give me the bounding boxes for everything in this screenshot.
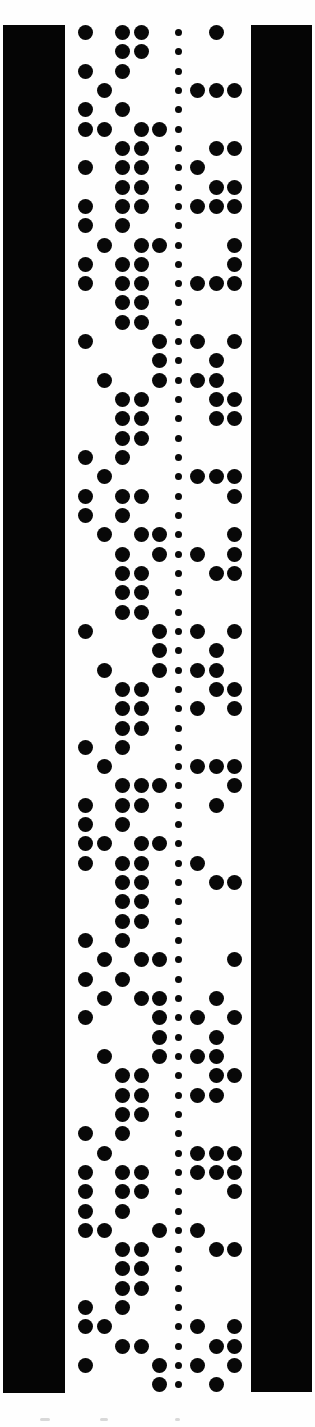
- data-hole-icon: [227, 238, 242, 253]
- sprocket-hole-icon: [175, 1343, 182, 1350]
- data-hole-icon: [115, 778, 130, 793]
- scan-artifact-mark: [40, 1418, 50, 1421]
- data-hole-icon: [115, 25, 130, 40]
- data-hole-icon: [134, 1184, 149, 1199]
- data-hole-icon: [209, 759, 224, 774]
- data-hole-icon: [190, 1010, 205, 1025]
- data-hole-icon: [115, 64, 130, 79]
- data-hole-icon: [190, 547, 205, 562]
- data-hole-icon: [227, 1358, 242, 1373]
- data-hole-icon: [227, 1010, 242, 1025]
- data-hole-icon: [227, 411, 242, 426]
- data-hole-icon: [115, 295, 130, 310]
- data-hole-icon: [209, 353, 224, 368]
- data-hole-icon: [115, 1281, 130, 1296]
- data-hole-icon: [134, 1339, 149, 1354]
- sprocket-hole-icon: [175, 1323, 182, 1330]
- data-hole-icon: [115, 1107, 130, 1122]
- scan-artifact-mark: [100, 1418, 108, 1421]
- sprocket-hole-icon: [175, 937, 182, 944]
- data-hole-icon: [209, 566, 224, 581]
- data-hole-icon: [134, 25, 149, 40]
- data-hole-icon: [227, 489, 242, 504]
- sprocket-hole-icon: [175, 821, 182, 828]
- data-hole-icon: [134, 605, 149, 620]
- data-hole-icon: [227, 180, 242, 195]
- sprocket-hole-icon: [175, 686, 182, 693]
- sprocket-hole-icon: [175, 280, 182, 287]
- sprocket-hole-icon: [175, 184, 182, 191]
- sprocket-hole-icon: [175, 126, 182, 133]
- sprocket-hole-icon: [175, 1111, 182, 1118]
- sprocket-hole-icon: [175, 725, 182, 732]
- sprocket-hole-icon: [175, 609, 182, 616]
- data-hole-icon: [115, 701, 130, 716]
- data-hole-icon: [190, 469, 205, 484]
- data-hole-icon: [209, 373, 224, 388]
- data-hole-icon: [190, 334, 205, 349]
- data-hole-icon: [115, 605, 130, 620]
- sprocket-hole-icon: [175, 493, 182, 500]
- data-hole-icon: [209, 1242, 224, 1257]
- data-hole-icon: [134, 431, 149, 446]
- sprocket-hole-icon: [175, 87, 182, 94]
- sprocket-hole-icon: [175, 879, 182, 886]
- data-hole-icon: [134, 914, 149, 929]
- sprocket-hole-icon: [175, 396, 182, 403]
- data-hole-icon: [227, 875, 242, 890]
- sprocket-hole-icon: [175, 1362, 182, 1369]
- data-hole-icon: [152, 1030, 167, 1045]
- sprocket-hole-icon: [175, 222, 182, 229]
- data-hole-icon: [134, 1242, 149, 1257]
- data-hole-icon: [115, 972, 130, 987]
- data-hole-icon: [152, 122, 167, 137]
- data-hole-icon: [115, 894, 130, 909]
- data-hole-icon: [78, 450, 93, 465]
- data-hole-icon: [209, 411, 224, 426]
- data-hole-icon: [190, 276, 205, 291]
- sprocket-hole-icon: [175, 512, 182, 519]
- data-hole-icon: [78, 817, 93, 832]
- data-hole-icon: [227, 1319, 242, 1334]
- sprocket-hole-icon: [175, 1227, 182, 1234]
- data-hole-icon: [209, 643, 224, 658]
- data-hole-icon: [78, 122, 93, 137]
- data-hole-icon: [97, 122, 112, 137]
- data-hole-icon: [209, 875, 224, 890]
- sprocket-hole-icon: [175, 1034, 182, 1041]
- data-hole-icon: [190, 160, 205, 175]
- data-hole-icon: [78, 160, 93, 175]
- data-hole-icon: [209, 25, 224, 40]
- data-hole-icon: [97, 991, 112, 1006]
- data-hole-icon: [190, 701, 205, 716]
- data-hole-icon: [97, 836, 112, 851]
- data-hole-icon: [227, 141, 242, 156]
- sprocket-hole-icon: [175, 1381, 182, 1388]
- data-hole-icon: [152, 952, 167, 967]
- data-hole-icon: [78, 334, 93, 349]
- data-hole-icon: [152, 353, 167, 368]
- data-hole-icon: [227, 1339, 242, 1354]
- data-hole-icon: [78, 972, 93, 987]
- data-hole-icon: [134, 122, 149, 137]
- data-hole-icon: [134, 141, 149, 156]
- data-hole-icon: [134, 836, 149, 851]
- data-hole-icon: [152, 1049, 167, 1064]
- data-hole-icon: [115, 721, 130, 736]
- data-hole-icon: [190, 83, 205, 98]
- data-hole-icon: [115, 1300, 130, 1315]
- data-hole-icon: [78, 1204, 93, 1219]
- sprocket-hole-icon: [175, 744, 182, 751]
- sprocket-hole-icon: [175, 242, 182, 249]
- data-hole-icon: [152, 624, 167, 639]
- sprocket-hole-icon: [175, 570, 182, 577]
- data-hole-icon: [190, 1319, 205, 1334]
- sprocket-hole-icon: [175, 377, 182, 384]
- data-hole-icon: [115, 257, 130, 272]
- data-hole-icon: [209, 1339, 224, 1354]
- data-hole-icon: [134, 682, 149, 697]
- data-hole-icon: [134, 180, 149, 195]
- sprocket-hole-icon: [175, 454, 182, 461]
- data-hole-icon: [209, 392, 224, 407]
- sprocket-hole-icon: [175, 898, 182, 905]
